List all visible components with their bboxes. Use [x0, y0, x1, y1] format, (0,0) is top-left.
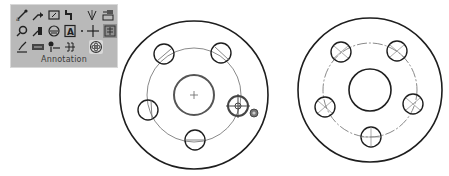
flange-drawing-after	[298, 18, 442, 162]
drawing-canvas[interactable]	[0, 0, 449, 176]
bolt-hole-with-centermark[interactable]	[315, 97, 335, 117]
bolt-hole-with-centermark[interactable]	[403, 94, 423, 114]
outer-circle	[298, 18, 442, 162]
center-mark-cursor-icon	[250, 109, 258, 117]
center-hole	[349, 69, 391, 111]
bolt-hole[interactable]	[185, 130, 205, 150]
center-point-icon	[190, 91, 198, 99]
bolt-hole-with-centermark[interactable]	[387, 41, 407, 61]
bolt-hole-with-centermark[interactable]	[331, 42, 351, 62]
bolt-hole-hovered[interactable]	[226, 94, 250, 118]
flange-drawing-before	[120, 21, 268, 169]
bolt-circle	[323, 43, 417, 137]
bolt-hole-with-centermark[interactable]	[361, 127, 381, 147]
